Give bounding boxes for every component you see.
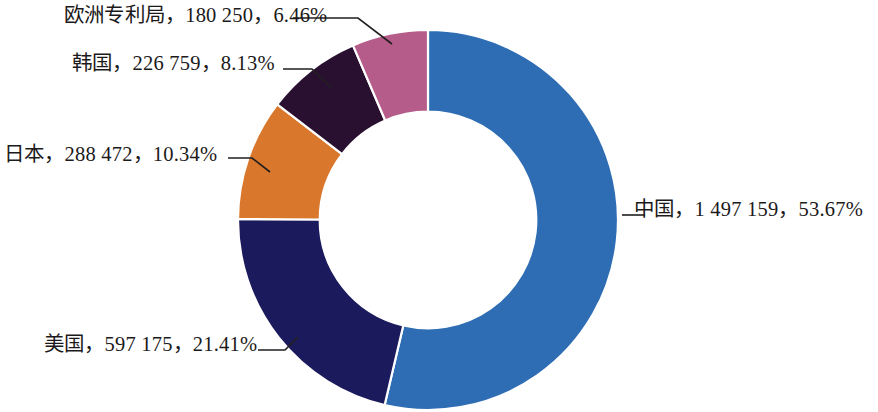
- slice-label-epo: 欧洲专利局，180 250，6.46%: [64, 4, 327, 27]
- slice-label-china: 中国，1 497 159，53.67%: [634, 198, 863, 221]
- slice-label-korea: 韩国，226 759，8.13%: [72, 52, 275, 75]
- slice-label-usa: 美国，597 175，21.41%: [44, 333, 257, 356]
- donut-slice-group: [238, 30, 618, 410]
- slice-label-japan: 日本，288 472，10.34%: [4, 143, 217, 166]
- donut-slice-1[interactable]: [238, 219, 403, 405]
- chart-page: 欧洲专利局，180 250，6.46% 韩国，226 759，8.13% 日本，…: [0, 0, 878, 412]
